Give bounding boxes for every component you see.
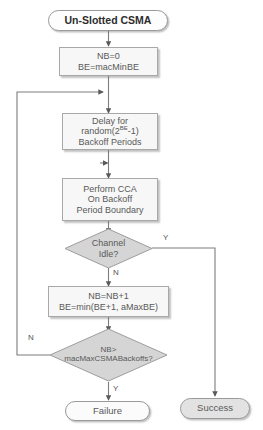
process-init[interactable]: NB=0 BE=macMinBE xyxy=(59,47,158,76)
process-cca-line3: Period Boundary xyxy=(76,205,143,215)
process-init-line2: BE=macMinBE xyxy=(78,62,139,72)
branch-label-idle-yes: Y xyxy=(163,233,168,242)
process-delay-line2-pre: random(2 xyxy=(81,126,120,136)
flowchart-canvas: Un-Slotted CSMA NB=0 BE=macMinBE Delay f… xyxy=(0,0,263,430)
decision-max-backoffs-line2: macMaxCSMABackoffs? xyxy=(49,355,168,364)
process-increment-line2: BE=min(BE+1, aMaxBE) xyxy=(59,302,158,312)
terminal-start[interactable]: Un-Slotted CSMA xyxy=(48,10,168,31)
process-delay[interactable]: Delay for random(2BE-1) Backoff Periods xyxy=(62,113,158,150)
process-delay-line1: Delay for xyxy=(79,116,142,126)
process-init-line1: NB=0 xyxy=(78,51,139,61)
process-cca[interactable]: Perform CCA On Backoff Period Boundary xyxy=(62,178,158,221)
terminal-success[interactable]: Success xyxy=(180,398,250,419)
decision-channel-idle-line1: Channel xyxy=(64,238,153,248)
decision-channel-idle[interactable]: Channel Idle? xyxy=(64,228,153,269)
terminal-success-label: Success xyxy=(197,403,233,414)
process-cca-line1: Perform CCA xyxy=(76,184,143,194)
process-cca-line2: On Backoff xyxy=(76,194,143,204)
decision-channel-idle-line2: Idle? xyxy=(64,249,153,259)
process-delay-line2: random(2BE-1) xyxy=(79,126,142,136)
branch-label-idle-no: N xyxy=(113,268,119,277)
process-delay-line3: Backoff Periods xyxy=(79,137,142,147)
process-increment[interactable]: NB=NB+1 BE=min(BE+1, aMaxBE) xyxy=(48,286,169,317)
terminal-failure[interactable]: Failure xyxy=(65,401,150,421)
branch-label-maxbackoff-no: N xyxy=(28,333,34,342)
terminal-start-label: Un-Slotted CSMA xyxy=(65,15,152,27)
process-increment-line1: NB=NB+1 xyxy=(59,291,158,301)
decision-max-backoffs[interactable]: NB> macMaxCSMABackoffs? xyxy=(49,328,168,382)
process-delay-line2-post: -1) xyxy=(128,126,139,136)
branch-label-maxbackoff-yes: Y xyxy=(113,384,118,393)
terminal-failure-label: Failure xyxy=(93,406,122,417)
process-delay-exponent: BE xyxy=(120,125,128,131)
